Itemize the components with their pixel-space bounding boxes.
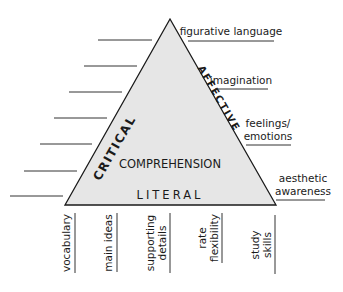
label-aesthetic: aesthetic [279,172,328,184]
label-rate: rate [196,227,208,248]
label-feelings: feelings/ [246,117,291,129]
label-skills: skills [261,232,273,258]
label-main-ideas: main ideas [102,214,114,272]
bottom-labels: vocabulary main ideas supporting details… [60,213,275,274]
label-figurative-language: figurative language [180,25,283,37]
literal-label: LITERAL [137,188,204,202]
label-supporting: supporting [144,215,156,272]
label-emotions: emotions [244,130,293,142]
label-awareness: awareness [275,185,331,197]
label-imagination: imagination [210,74,272,86]
comprehension-triangle-diagram: CRITICAL AFFECTIVE COMPREHENSION LITERAL… [0,0,343,292]
label-study: study [249,230,261,259]
label-flexibility: flexibility [208,214,220,262]
label-vocabulary: vocabulary [60,214,72,272]
comprehension-label: COMPREHENSION [119,157,221,171]
label-details: details [156,226,168,261]
